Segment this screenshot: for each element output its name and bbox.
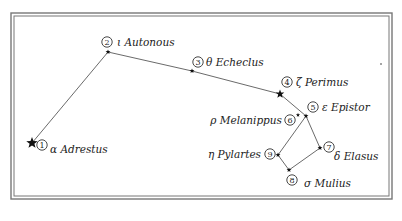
star-8-mulius: 8σ Mulius xyxy=(287,167,352,189)
star-number: 2 xyxy=(104,38,109,47)
star-number: 6 xyxy=(287,116,292,125)
edge-4-5 xyxy=(280,94,306,116)
star-label: η Pylartes xyxy=(208,148,262,160)
star-5-epistor: 5ε Epistor xyxy=(304,101,371,118)
star-number: 7 xyxy=(326,143,331,152)
edge-2-3 xyxy=(108,52,192,71)
star-3-echeclus: 3θ Echeclus xyxy=(190,56,265,73)
edge-3-4 xyxy=(192,71,280,94)
star-label: σ Mulius xyxy=(304,177,351,189)
star-label: ζ Perimus xyxy=(296,76,349,88)
star-icon xyxy=(296,113,300,117)
star-label: α Adrestus xyxy=(50,143,108,155)
constellation-map: 1α Adrestus2ι Autonous3θ Echeclus4ζ Peri… xyxy=(0,0,402,221)
star-7-elasus: 7δ Elasus xyxy=(318,142,380,162)
star-number: 5 xyxy=(310,103,315,112)
edge-8-7 xyxy=(289,148,320,170)
star-label: ε Epistor xyxy=(322,101,371,113)
star-label: θ Echeclus xyxy=(206,56,264,68)
star-number: 9 xyxy=(267,150,272,159)
edge-7-5 xyxy=(306,116,320,148)
star-2-autonous: 2ι Autonous xyxy=(102,36,175,54)
star-icon xyxy=(190,68,195,73)
star-number: 1 xyxy=(39,141,44,150)
star-number: 8 xyxy=(289,176,294,185)
star-number: 3 xyxy=(195,58,200,67)
star-4-perimus: 4ζ Perimus xyxy=(276,76,349,98)
star-number: 4 xyxy=(284,78,289,87)
star-9-pylartes: 9η Pylartes xyxy=(208,148,281,160)
star-label: ρ Melanippus xyxy=(209,114,282,126)
edge-1-2 xyxy=(32,52,108,143)
stray-dot xyxy=(380,63,382,65)
star-icon xyxy=(106,49,111,54)
edge-9-8 xyxy=(278,155,289,170)
star-label: ι Autonous xyxy=(117,36,175,48)
star-1-adrestus: 1α Adrestus xyxy=(26,137,108,155)
star-label: δ Elasus xyxy=(334,150,379,162)
star-6-melanippus: 6ρ Melanippus xyxy=(209,113,300,126)
stars: 1α Adrestus2ι Autonous3θ Echeclus4ζ Peri… xyxy=(26,36,382,189)
